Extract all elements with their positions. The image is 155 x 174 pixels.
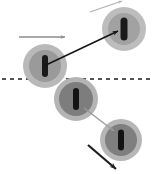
- sphere-4-marker-bar: [118, 130, 124, 151]
- sphere-2-marker-bar: [121, 18, 128, 41]
- sphere-1: [23, 44, 67, 88]
- arrow-horizontal-left: [19, 35, 65, 39]
- sphere-3-marker-bar: [73, 88, 79, 110]
- arrow-connector-3-to-4: [84, 108, 114, 131]
- sphere-1-marker-bar: [42, 55, 48, 77]
- sphere-2: [102, 7, 146, 51]
- spheres-layer: [23, 7, 146, 161]
- arrow-connector-3-to-4-shaft: [84, 108, 114, 131]
- figure-canvas: [0, 0, 155, 174]
- diagram-svg: [0, 0, 155, 174]
